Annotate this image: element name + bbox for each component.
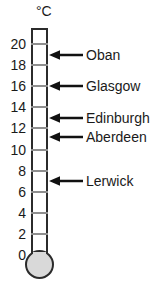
tick-label: 18: [0, 57, 26, 73]
tick-label: 14: [0, 99, 26, 115]
reading-label: Edinburgh: [86, 111, 150, 125]
tick-label: 16: [0, 78, 26, 94]
tick-line: [31, 233, 48, 235]
reading-pointer: Lerwick: [49, 174, 133, 188]
reading-pointer: Oban: [49, 48, 120, 62]
tick-line: [31, 127, 48, 129]
tick-label: 8: [0, 163, 26, 179]
tick-line: [31, 106, 48, 108]
unit-label: °C: [36, 3, 52, 19]
tick-line: [31, 191, 48, 193]
tick-line: [31, 212, 48, 214]
tick-label: 6: [0, 184, 26, 200]
thermometer-diagram: °C 20181614121086420 ObanGlasgowEdinburg…: [0, 0, 162, 282]
tick-line: [31, 85, 48, 87]
tick-label: 12: [0, 120, 26, 136]
tick-line: [31, 149, 48, 151]
tick-line: [31, 254, 48, 256]
tick-line: [31, 43, 48, 45]
tick-label: 0: [0, 247, 26, 263]
tick-label: 20: [0, 36, 26, 52]
tick-label: 2: [0, 226, 26, 242]
left-arrow-icon: [49, 175, 83, 187]
reading-pointer: Aberdeen: [49, 130, 147, 144]
reading-label: Oban: [86, 48, 120, 62]
tick-line: [31, 64, 48, 66]
reading-label: Glasgow: [86, 79, 140, 93]
thermometer-tube: [31, 28, 48, 260]
reading-pointer: Glasgow: [49, 79, 140, 93]
tick-label: 4: [0, 205, 26, 221]
tick-line: [31, 170, 48, 172]
reading-label: Lerwick: [86, 174, 133, 188]
tick-label: 10: [0, 142, 26, 158]
left-arrow-icon: [49, 80, 83, 92]
left-arrow-icon: [49, 131, 83, 143]
reading-label: Aberdeen: [86, 130, 147, 144]
reading-pointer: Edinburgh: [49, 111, 150, 125]
left-arrow-icon: [49, 112, 83, 124]
left-arrow-icon: [49, 49, 83, 61]
